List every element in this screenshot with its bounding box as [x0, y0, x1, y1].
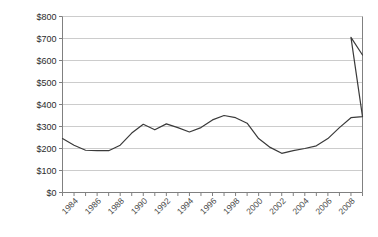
- x-axis-tick-label: 2000: [244, 196, 265, 217]
- x-axis-tick-label: 1984: [60, 196, 81, 217]
- y-axis-tick-label: $100: [36, 166, 56, 176]
- x-axis-tick-label: 1990: [129, 196, 150, 217]
- x-axis-tick-label: 1988: [106, 196, 127, 217]
- x-axis-tick-label: 2004: [290, 196, 311, 217]
- y-axis-tick-label: $300: [36, 122, 56, 132]
- x-axis-tick-label: 2008: [336, 196, 357, 217]
- data-series-line: [63, 37, 363, 153]
- y-axis-tick-label: $800: [36, 12, 56, 22]
- y-axis-tick-label: $200: [36, 144, 56, 154]
- x-axis-tick-label: 1992: [152, 196, 173, 217]
- x-axis-tick-label: 1994: [175, 196, 196, 217]
- line-chart: $0$100$200$300$400$500$600$700$800198419…: [0, 0, 378, 237]
- x-axis-tick-label: 2006: [313, 196, 334, 217]
- x-axis-tick-label: 1996: [198, 196, 219, 217]
- y-axis-tick-label: $0: [46, 188, 56, 198]
- y-axis-tick-label: $500: [36, 78, 56, 88]
- y-axis-tick-label: $400: [36, 100, 56, 110]
- x-axis-tick-label: 2002: [267, 196, 288, 217]
- chart-container: $0$100$200$300$400$500$600$700$800198419…: [0, 0, 378, 237]
- y-axis-tick-label: $600: [36, 56, 56, 66]
- x-axis-tick-label: 1986: [83, 196, 104, 217]
- x-axis-tick-label: 1998: [221, 196, 242, 217]
- y-axis-tick-label: $700: [36, 34, 56, 44]
